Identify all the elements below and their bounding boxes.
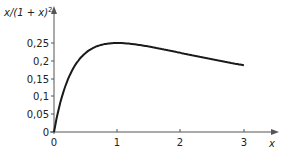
y-tick-label: 0,2 [33,56,49,67]
y-tick-label: 0,15 [27,74,49,85]
y-axis-title: x/(1 + x)2 [3,6,53,18]
x-axis-arrow-icon [271,129,279,135]
x-axis-title: x [268,138,275,149]
y-tick-label: 0,25 [27,38,49,49]
y-axis [51,6,57,134]
x-axis [50,129,279,135]
y-tick-label: 0 [43,127,49,138]
x-tick-label: 1 [114,137,120,148]
y-tick-label: 0,05 [27,109,49,120]
x-tick-label: 2 [177,137,183,148]
chart: 0 0,05 0,1 0,15 0,2 0,25 0 1 2 3 x x/(1 … [0,0,284,158]
x-tick-label: 0 [51,137,57,148]
x-tick-label: 3 [241,137,247,148]
y-tick-label: 0,1 [33,91,49,102]
curve-line [54,43,244,132]
y-ticks: 0 0,05 0,1 0,15 0,2 0,25 [27,38,54,138]
